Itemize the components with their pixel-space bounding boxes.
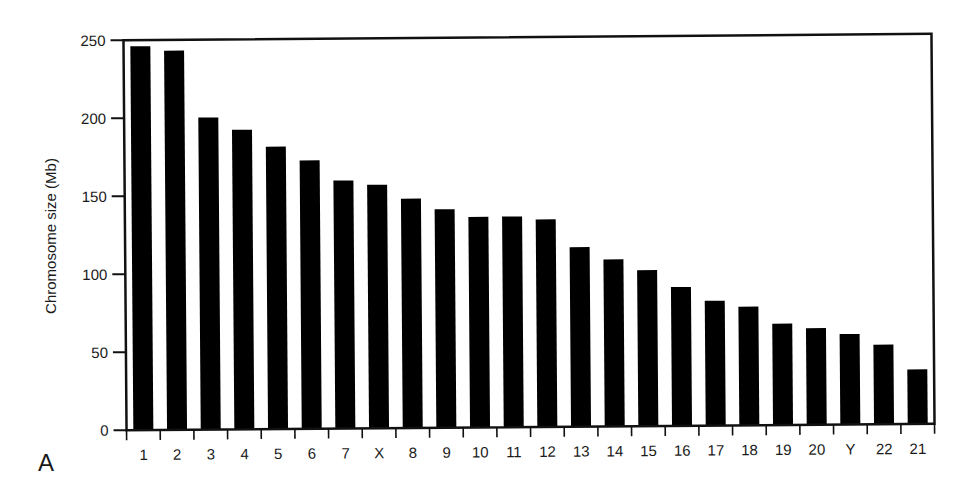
bar-chr-22 [873, 345, 894, 425]
bar-chr-19 [772, 324, 793, 426]
bar-chr-4 [232, 130, 254, 430]
x-tick-label: X [374, 444, 384, 461]
plot-area: 0501001502002501234567X89101112131415161… [80, 25, 934, 463]
x-tick-label: 6 [308, 445, 316, 462]
bar-chr-12 [536, 219, 558, 427]
bar-chr-20 [806, 328, 827, 425]
bar-chr-16 [671, 287, 692, 426]
bar-chr-17 [705, 301, 726, 426]
bar-chr-8 [401, 199, 423, 428]
y-tick-label: 100 [82, 266, 107, 283]
x-tick-label: 1 [139, 446, 147, 463]
x-tick-label: 19 [775, 441, 792, 458]
bar-chr-13 [570, 247, 591, 427]
chart-container: 0501001502002501234567X89101112131415161… [0, 0, 975, 503]
x-tick-label: 8 [409, 444, 417, 461]
x-tick-label: 15 [640, 442, 657, 459]
x-tick-label: 12 [539, 443, 556, 460]
y-tick-label: 250 [80, 32, 105, 49]
y-tick-label: 200 [81, 110, 106, 127]
bar-chr-X [367, 185, 389, 429]
x-tick-label: 22 [876, 440, 893, 457]
x-tick-label: 13 [573, 443, 590, 460]
y-tick-label: 150 [82, 188, 107, 205]
x-tick-label: 9 [442, 444, 450, 461]
bar-chr-15 [637, 270, 658, 426]
x-tick-label: 2 [173, 446, 181, 463]
bar-chr-11 [502, 216, 524, 427]
bar-chr-10 [468, 217, 490, 428]
bar-chr-2 [164, 51, 187, 430]
bar-chr-18 [738, 307, 759, 426]
x-tick-label: 20 [808, 441, 825, 458]
x-tick-label: 21 [909, 440, 926, 457]
bar-chart: 0501001502002501234567X89101112131415161… [0, 0, 975, 503]
x-tick-label: Y [845, 440, 855, 457]
bar-chr-14 [603, 259, 624, 426]
x-tick-label: 18 [741, 441, 758, 458]
bar-chr-21 [907, 369, 927, 424]
y-tick-label: 0 [100, 422, 108, 439]
panel-label: A [38, 449, 54, 477]
x-tick-label: 16 [674, 442, 691, 459]
bar-chr-1 [130, 46, 153, 430]
x-tick-label: 14 [606, 442, 623, 459]
y-axis-label: Chromosome size (Mb) [42, 158, 59, 314]
x-tick-label: 5 [274, 445, 282, 462]
x-tick-label: 4 [240, 445, 248, 462]
bar-chr-5 [266, 147, 288, 430]
x-tick-label: 17 [707, 441, 724, 458]
x-tick-label: 7 [341, 444, 349, 461]
bar-chr-3 [198, 117, 220, 429]
x-tick-label: 11 [506, 443, 522, 460]
bar-chr-7 [333, 180, 355, 428]
x-tick-label: 10 [472, 443, 489, 460]
bar-chr-6 [300, 160, 322, 428]
bar-chr-9 [435, 209, 457, 428]
bar-chr-Y [840, 334, 861, 425]
y-tick-label: 50 [91, 344, 108, 361]
x-tick-label: 3 [207, 445, 215, 462]
